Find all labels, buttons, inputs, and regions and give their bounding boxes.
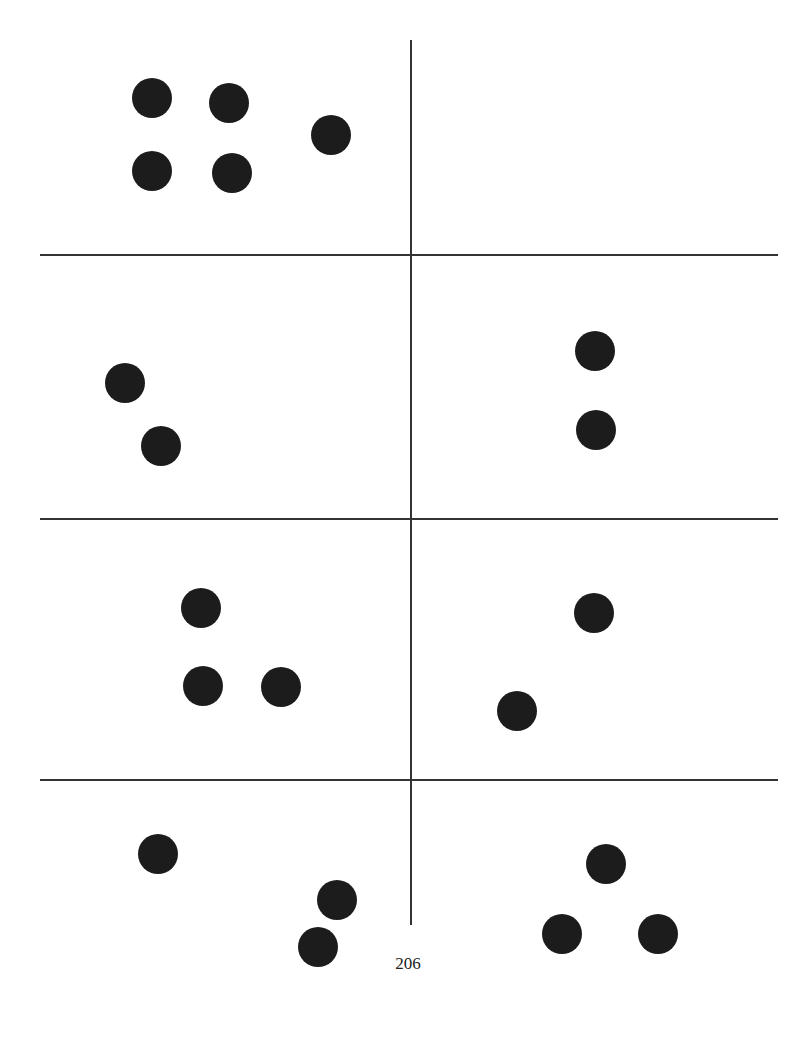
dot	[105, 363, 145, 403]
page-number: 206	[0, 954, 800, 974]
dot	[311, 115, 351, 155]
dot	[132, 151, 172, 191]
horizontal-divider-1	[40, 254, 778, 256]
horizontal-divider-2	[40, 518, 778, 520]
worksheet-page: 206	[0, 0, 800, 1042]
dot	[638, 914, 678, 954]
dot	[497, 691, 537, 731]
dot	[141, 426, 181, 466]
dot	[317, 880, 357, 920]
dot	[132, 78, 172, 118]
dot	[138, 834, 178, 874]
dot	[542, 914, 582, 954]
dot	[574, 593, 614, 633]
horizontal-divider-3	[40, 779, 778, 781]
dot	[209, 83, 249, 123]
dot	[181, 588, 221, 628]
dot	[261, 667, 301, 707]
vertical-divider	[410, 40, 412, 925]
dot	[586, 844, 626, 884]
dot	[183, 666, 223, 706]
dot	[212, 153, 252, 193]
dot	[576, 410, 616, 450]
dot	[575, 331, 615, 371]
